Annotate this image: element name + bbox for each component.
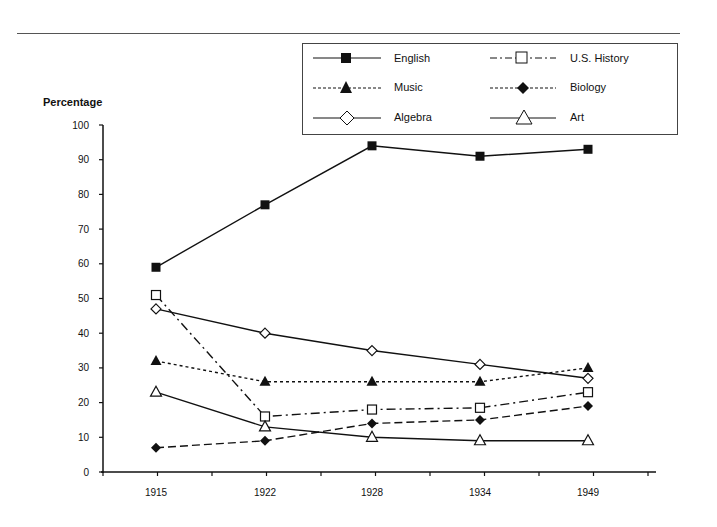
legend-label-biology: Biology xyxy=(570,81,606,93)
data-point-music xyxy=(151,355,162,365)
data-point-english xyxy=(476,152,485,161)
data-point-biology xyxy=(367,418,377,428)
y-tick-label: 90 xyxy=(78,154,90,165)
data-point-u-s-history xyxy=(152,291,161,300)
data-point-art xyxy=(151,386,162,396)
data-point-biology xyxy=(151,443,161,453)
x-tick-label: 1934 xyxy=(469,487,492,498)
y-tick-label: 80 xyxy=(78,189,90,200)
data-point-english xyxy=(584,145,593,154)
y-tick-label: 70 xyxy=(78,224,90,235)
x-tick-label: 1949 xyxy=(577,487,600,498)
data-point-art xyxy=(475,435,486,445)
data-point-music xyxy=(260,376,271,386)
series-line-english xyxy=(156,146,588,267)
y-tick-label: 100 xyxy=(72,120,89,131)
data-point-music xyxy=(475,376,486,386)
legend-label-english: English xyxy=(394,52,430,64)
y-tick-label: 50 xyxy=(78,293,90,304)
legend-swatch-music xyxy=(313,81,381,93)
data-point-biology xyxy=(260,436,270,446)
data-point-algebra xyxy=(367,346,377,356)
data-point-english xyxy=(152,263,161,272)
data-point-biology xyxy=(583,401,593,411)
legend-swatch-art xyxy=(490,110,556,124)
data-point-u-s-history xyxy=(368,405,377,414)
data-point-u-s-history xyxy=(476,403,485,412)
legend-label-music: Music xyxy=(394,81,423,93)
legend: English U.S. History Music Biology Algeb… xyxy=(302,43,678,135)
data-point-biology xyxy=(475,415,485,425)
data-point-algebra xyxy=(151,304,161,314)
data-point-algebra xyxy=(583,373,593,383)
data-point-music xyxy=(367,376,378,386)
y-tick-label: 60 xyxy=(78,258,90,269)
data-point-art xyxy=(583,435,594,445)
x-tick-label: 1915 xyxy=(145,487,168,498)
legend-swatch-biology xyxy=(490,82,556,94)
data-point-u-s-history xyxy=(261,412,270,421)
legend-label-us-history: U.S. History xyxy=(570,52,629,64)
legend-swatch-us-history xyxy=(490,52,556,63)
data-point-english xyxy=(368,141,377,150)
data-point-u-s-history xyxy=(584,388,593,397)
y-tick-label: 0 xyxy=(83,467,89,478)
legend-swatch-algebra xyxy=(313,111,381,125)
data-point-english xyxy=(261,200,270,209)
data-point-algebra xyxy=(260,328,270,338)
y-tick-label: 30 xyxy=(78,362,90,373)
legend-label-algebra: Algebra xyxy=(394,111,432,123)
data-point-algebra xyxy=(475,359,485,369)
legend-label-art: Art xyxy=(570,111,584,123)
y-tick-label: 10 xyxy=(78,432,90,443)
x-tick-label: 1928 xyxy=(361,487,384,498)
y-tick-label: 40 xyxy=(78,328,90,339)
data-point-music xyxy=(583,362,594,372)
x-tick-label: 1922 xyxy=(254,487,277,498)
y-tick-label: 20 xyxy=(78,397,90,408)
legend-swatch-english xyxy=(313,53,381,63)
